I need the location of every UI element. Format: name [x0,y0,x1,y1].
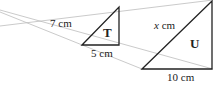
triangle-u-base-label: 10 cm [167,71,195,83]
triangle-u: x cm U 10 cm [142,1,212,83]
ray-top [0,0,213,26]
triangle-t-name: T [103,25,112,40]
triangle-u-hypotenuse-label: x cm [153,19,176,31]
triangle-t-height-label: 7 cm [50,17,72,29]
unit-cm: cm [159,19,176,31]
triangle-t-base-label: 5 cm [91,47,113,59]
enlargement-diagram: 7 cm T 5 cm x cm U 10 cm [0,0,220,87]
triangle-u-name: U [190,36,200,51]
triangle-t-shape [82,7,119,45]
